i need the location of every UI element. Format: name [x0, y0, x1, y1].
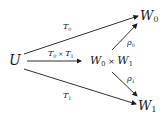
node-W0: W0 — [140, 9, 158, 24]
arrow-U-to-W1 — [24, 69, 136, 104]
node-W1: W1 — [138, 99, 156, 114]
edge-T1-sub: 1 — [68, 96, 71, 101]
node-W0-base: W — [140, 8, 153, 23]
edge-label-T0: T0 — [63, 23, 71, 33]
edge-label-rho1: ρ1 — [127, 75, 135, 85]
node-U-label: U — [9, 52, 21, 68]
arrow-U-to-W0 — [24, 16, 138, 54]
node-U: U — [9, 53, 21, 67]
edge-T0-sub: 0 — [68, 27, 71, 32]
product-a-base: W — [90, 54, 101, 67]
edge-prod-b-sub: 1 — [71, 54, 74, 59]
edge-label-T0xT1: T0 × T1 — [48, 50, 74, 60]
product-b-base: W — [117, 54, 128, 67]
product-op: × — [106, 57, 118, 66]
product-b-sub: 1 — [129, 60, 133, 68]
node-product: W0 × W1 — [90, 55, 133, 68]
edge-prod-op: × — [56, 50, 65, 57]
node-W1-base: W — [138, 98, 151, 113]
edge-label-T1: T1 — [63, 92, 71, 102]
edge-rho0-sub: 0 — [132, 43, 135, 48]
node-W0-sub: 0 — [153, 15, 158, 24]
edge-label-rho0: ρ0 — [127, 39, 135, 49]
node-W1-sub: 1 — [151, 105, 156, 114]
edge-rho1-sub: 1 — [132, 79, 135, 84]
